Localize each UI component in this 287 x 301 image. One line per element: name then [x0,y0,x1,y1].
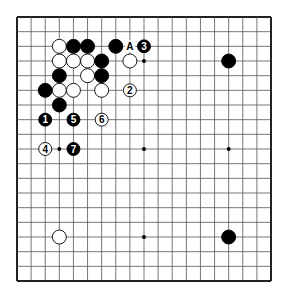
move-number: 5 [71,114,77,125]
white-stone: 2 [123,84,136,97]
white-stone [66,54,80,68]
black-stone [95,69,109,83]
black-stone [109,39,123,53]
move-number: 6 [99,114,105,125]
black-stone [38,83,52,97]
black-stone: 1 [39,113,52,126]
move-number: 2 [127,85,133,96]
black-stone [81,39,95,53]
black-stone: 3 [138,40,151,53]
black-stone: 5 [67,113,80,126]
black-stone [222,54,236,68]
white-stone [52,83,66,97]
star-point [142,235,146,239]
go-board: 3215647 A [0,0,287,301]
white-stone [66,83,80,97]
black-stone [95,54,109,68]
markers-layer: A [125,40,135,52]
star-point [142,59,146,63]
white-stone [81,54,95,68]
move-number: 3 [141,41,147,52]
star-point [227,147,231,151]
white-stone [123,54,137,68]
move-number: 1 [42,114,48,125]
point-marker-label: A [126,41,133,52]
move-number: 4 [42,144,48,155]
star-point [57,147,61,151]
move-number: 7 [71,144,77,155]
white-stone: 6 [95,113,108,126]
black-stone [52,98,66,112]
black-stone [52,69,66,83]
white-stone: 4 [39,143,52,156]
white-stone [81,69,95,83]
black-stone [222,230,236,244]
black-stone: 7 [67,143,80,156]
go-board-diagram: 3215647 A [0,0,287,301]
white-stone [52,230,66,244]
black-stone [66,39,80,53]
stones-layer: 3215647 [38,39,235,244]
star-point [142,147,146,151]
white-stone [52,54,66,68]
white-stone [95,83,109,97]
white-stone [52,39,66,53]
